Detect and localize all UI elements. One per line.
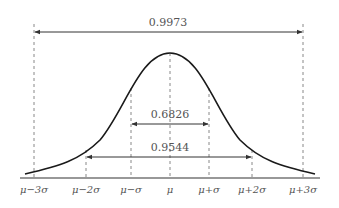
tick-mu-minus-sigma: μ−σ <box>120 184 143 195</box>
tick-labels: μ−3σ μ−2σ μ−σ μ μ+σ μ+2σ μ+3σ <box>20 184 318 195</box>
guide-lines <box>34 24 303 178</box>
tick-mu-minus-3sigma: μ−3σ <box>20 184 49 195</box>
tick-mu-plus-sigma: μ+σ <box>198 184 221 195</box>
label-0.9544: 0.9544 <box>151 141 190 154</box>
tick-mu: μ <box>167 184 174 195</box>
tick-mu-plus-2sigma: μ+2σ <box>238 184 267 195</box>
normal-distribution-diagram: 0.9973 0.6826 0.9544 μ−3σ μ−2σ μ−σ μ μ+σ… <box>0 0 339 208</box>
label-0.6826: 0.6826 <box>151 108 190 121</box>
tick-mu-minus-2sigma: μ−2σ <box>72 184 101 195</box>
tick-mu-plus-3sigma: μ+3σ <box>289 184 318 195</box>
label-0.9973: 0.9973 <box>149 16 188 29</box>
